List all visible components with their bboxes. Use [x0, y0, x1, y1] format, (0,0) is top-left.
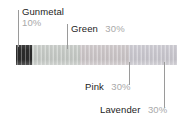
leader-line-gunmetal — [18, 10, 19, 47]
bar-segment-pink[interactable] — [80, 45, 128, 65]
bar-segment-lavender[interactable] — [129, 45, 177, 65]
callout-lavender-name: Lavender — [100, 104, 140, 115]
callout-gunmetal-name: Gunmetal — [22, 6, 64, 17]
callout-gunmetal-percent: 10% — [22, 17, 64, 28]
callout-green-percent: 30% — [105, 23, 124, 34]
color-palette-breakdown: Gunmetal 10% Green 30% Pink 30% Lavender… — [0, 0, 183, 121]
callout-green-name: Green — [71, 23, 98, 34]
callout-pink-name: Pink — [85, 81, 104, 92]
callout-lavender: Lavender 30% — [100, 102, 167, 115]
leader-line-green — [67, 24, 68, 49]
callout-gunmetal: Gunmetal 10% — [22, 6, 64, 28]
callout-green: Green 30% — [71, 21, 125, 34]
callout-pink-percent: 30% — [111, 81, 130, 92]
bar-segment-gunmetal[interactable] — [16, 45, 32, 65]
callout-pink: Pink 30% — [85, 79, 131, 92]
bar-segment-green[interactable] — [32, 45, 80, 65]
callout-lavender-percent: 30% — [148, 104, 167, 115]
palette-proportion-bar[interactable] — [16, 45, 177, 65]
